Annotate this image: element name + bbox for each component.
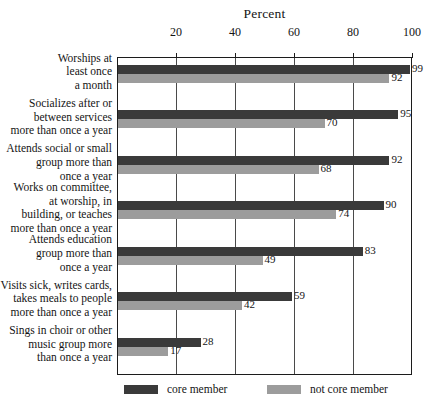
category-label-6: Sings in choir or other music group more… [9,324,112,365]
bar-value-label: 17 [170,346,181,355]
x-tickmark-100 [412,53,413,58]
bar-core-member-2 [118,156,389,165]
bar-value-label: 92 [391,73,402,82]
bar-not-core-member-4 [118,256,263,265]
bar-core-member-6 [118,338,201,347]
x-tick-label-100: 100 [392,25,432,40]
legend-swatch-icon [267,385,301,394]
bar-value-label: 49 [265,255,276,264]
bar-not-core-member-2 [118,165,319,174]
bar-value-label: 99 [412,64,423,73]
legend-item-noncore[interactable]: not core member [267,381,388,397]
bar-value-label: 90 [386,200,397,209]
category-label-2: Attends social or small group more than … [6,142,112,183]
category-label-1: Socializes after or between services mor… [10,97,112,138]
bar-value-label: 28 [203,337,214,346]
chart-legend: core membernot core member [117,381,412,399]
chart-title: Percent [117,6,412,22]
category-label-5: Visits sick, writes cards, takes meals t… [1,279,112,320]
bar-value-label: 74 [338,209,349,218]
bar-chart: Percent 20406080100 99929570926890748349… [0,0,436,406]
bar-value-label: 59 [294,291,305,300]
x-tick-label-60: 60 [274,25,314,40]
legend-swatch-icon [124,385,158,394]
x-tick-label-80: 80 [333,25,373,40]
category-label-4: Attends education group more than once a… [29,233,112,274]
legend-label: core member [167,383,227,395]
bar-not-core-member-1 [118,119,325,128]
bar-value-label: 42 [244,300,255,309]
bar-value-label: 70 [327,118,338,127]
legend-label: not core member [310,383,388,395]
bar-core-member-5 [118,292,292,301]
bar-core-member-0 [118,65,410,74]
bar-core-member-1 [118,110,398,119]
bar-value-label: 68 [321,164,332,173]
gridline-80 [353,58,354,374]
x-tick-label-20: 20 [156,25,196,40]
plot-area: 9992957092689074834959422817 [117,57,412,375]
bar-not-core-member-5 [118,301,242,310]
bar-value-label: 95 [400,109,411,118]
bar-value-label: 92 [391,155,402,164]
category-label-0: Worships at least once a month [58,52,112,93]
bar-value-label: 83 [365,246,376,255]
category-label-3: Works on committee, at worship, in build… [10,181,112,235]
bar-not-core-member-0 [118,74,389,83]
x-tick-label-40: 40 [215,25,255,40]
bar-not-core-member-6 [118,347,168,356]
legend-item-core[interactable]: core member [124,381,227,397]
bar-core-member-4 [118,247,363,256]
bar-not-core-member-3 [118,210,336,219]
